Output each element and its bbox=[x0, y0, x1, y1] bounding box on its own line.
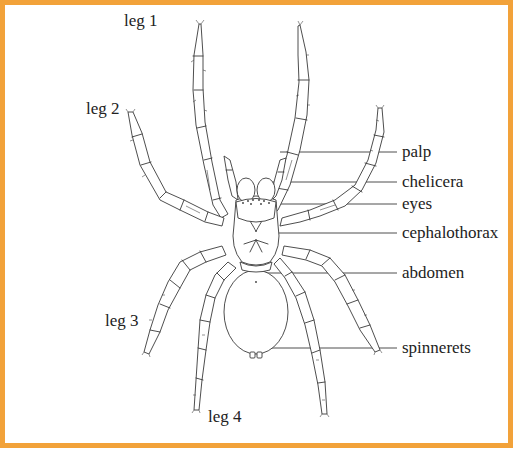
label-leg-2: leg 2 bbox=[86, 100, 120, 117]
label-cephalothorax: cephalothorax bbox=[402, 224, 498, 241]
label-spinnerets: spinnerets bbox=[402, 339, 471, 356]
label-leg-3: leg 3 bbox=[105, 312, 139, 329]
label-abdomen: abdomen bbox=[402, 264, 464, 281]
leg-4-left bbox=[192, 262, 236, 413]
label-leg-4: leg 4 bbox=[208, 408, 242, 425]
label-eyes: eyes bbox=[402, 195, 432, 212]
label-chelicera: chelicera bbox=[402, 173, 463, 190]
label-leg-1: leg 1 bbox=[124, 12, 158, 29]
leg-4-right bbox=[274, 258, 329, 417]
label-palp: palp bbox=[402, 143, 431, 160]
leg-1-left bbox=[191, 20, 228, 218]
